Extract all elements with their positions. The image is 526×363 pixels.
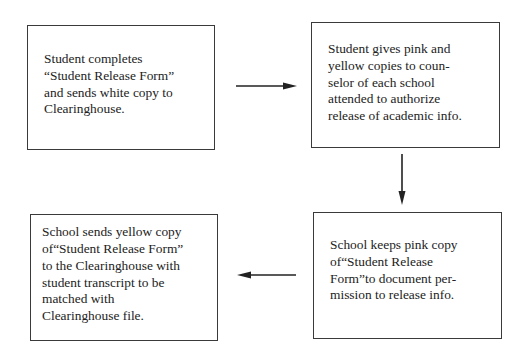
arrow-right-step1-to-step2	[236, 83, 297, 90]
arrow-left-step3-to-step4	[237, 272, 296, 279]
arrow-down-step2-to-step3	[399, 154, 406, 205]
connector-layer	[0, 0, 526, 363]
